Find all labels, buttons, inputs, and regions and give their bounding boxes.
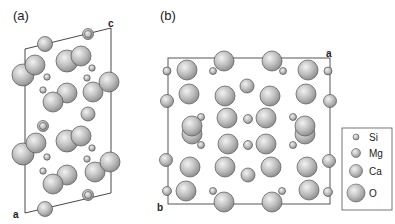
legend-label-si: Si [369, 132, 378, 143]
legend: Si Mg Ca O [342, 128, 392, 210]
panel-a: (a) c a [12, 8, 120, 220]
legend-label-mg: Mg [369, 148, 383, 159]
axis-label-a-b: a [326, 48, 332, 59]
mg-atom-icon [352, 149, 361, 158]
o-atom-icon [347, 184, 365, 202]
axis-label-c: c [108, 18, 114, 29]
crystal-structure-figure: (a) c a [0, 0, 395, 224]
legend-label-o: O [369, 188, 377, 199]
panel-a-label: (a) [13, 8, 29, 23]
legend-label-ca: Ca [369, 166, 382, 177]
si-atom-icon [353, 134, 359, 140]
atoms-panel-a [12, 29, 120, 217]
atoms-panel-b [160, 51, 337, 212]
axis-label-a: a [13, 209, 19, 220]
panel-b: (b) a b [157, 8, 337, 213]
axis-label-b: b [157, 202, 163, 213]
panel-b-label: (b) [160, 8, 176, 23]
ca-atom-icon [350, 165, 363, 178]
